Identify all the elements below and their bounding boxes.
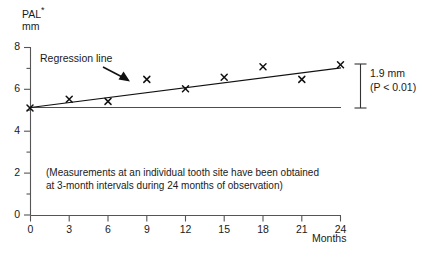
x-tick-label-21: 21 — [292, 224, 312, 235]
data-point — [221, 74, 227, 80]
data-point-markers — [27, 62, 344, 111]
data-point — [144, 76, 150, 82]
delta-significance-label: (P < 0.01) — [370, 82, 416, 93]
y-axis-title: PAL* mm — [22, 6, 45, 32]
data-point — [338, 62, 344, 68]
x-tick-label-9: 9 — [137, 224, 157, 235]
x-axis-title: Months — [312, 233, 346, 244]
y-axis-title-text: PAL — [22, 8, 41, 20]
x-tick-label-0: 0 — [21, 224, 41, 235]
x-tick-label-15: 15 — [214, 224, 234, 235]
methods-note-line-2: at 3-month intervals during 24 months of… — [46, 181, 283, 192]
x-tick-label-12: 12 — [176, 224, 196, 235]
data-point — [260, 64, 266, 70]
x-axis-ticks — [31, 216, 341, 222]
methods-note-line-1: (Measurements at an individual tooth sit… — [46, 168, 319, 179]
data-point — [105, 98, 111, 104]
y-tick-label-6: 6 — [8, 83, 20, 94]
delta-bracket — [355, 64, 367, 108]
data-point — [299, 76, 305, 82]
x-tick-label-18: 18 — [253, 224, 273, 235]
y-tick-label-2: 2 — [8, 167, 20, 178]
y-tick-label-8: 8 — [8, 41, 20, 52]
x-tick-label-3: 3 — [59, 224, 79, 235]
y-axis-unit: mm — [22, 21, 45, 32]
y-tick-label-4: 4 — [8, 125, 20, 136]
pal-regression-chart: PAL* mm 8 6 4 2 0 0 3 6 9 12 15 18 21 24… — [0, 0, 422, 263]
data-point — [66, 96, 72, 102]
y-tick-label-0: 0 — [8, 209, 20, 220]
y-axis-major-ticks — [24, 48, 31, 216]
delta-value-label: 1.9 mm — [370, 68, 405, 79]
data-point — [183, 86, 189, 92]
y-axis-title-footnote-marker: * — [41, 5, 45, 15]
regression-callout-arrow — [103, 67, 130, 82]
x-tick-label-6: 6 — [98, 224, 118, 235]
regression-line-callout-label: Regression line — [40, 53, 112, 64]
